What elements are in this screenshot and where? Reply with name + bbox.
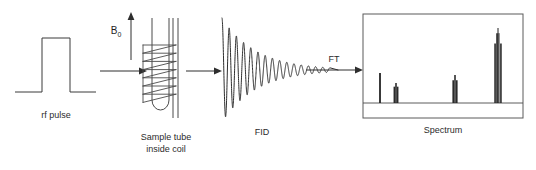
sample-tube-group: B0 Sample tube inside coil <box>111 12 192 154</box>
coil-turn-front <box>143 45 176 53</box>
nmr-flow-svg: rf pulse B0 Sample tube inside coil <box>0 0 536 170</box>
b0-field-arrow <box>128 12 135 60</box>
sample-tube-label-line1: Sample tube <box>141 132 192 142</box>
spectrum-peaks <box>380 28 501 103</box>
rf-pulse-label: rf pulse <box>41 110 71 120</box>
arrow-head-icon <box>214 68 222 75</box>
arrow-head-icon <box>128 12 135 20</box>
fid-label: FID <box>255 127 270 137</box>
fid-waveform <box>222 18 338 117</box>
spectrum-label: Spectrum <box>424 125 463 135</box>
coil-turn-front <box>143 70 176 78</box>
sample-tube-label-line2: inside coil <box>146 144 186 154</box>
rf-coil <box>143 45 176 102</box>
rf-pulse-waveform <box>15 38 96 92</box>
spectrum-peak <box>453 75 457 103</box>
coil-turn-front <box>143 53 176 61</box>
spectrum-peak <box>495 28 501 103</box>
spectrum-peak <box>394 83 397 103</box>
rf-pulse-group: rf pulse <box>15 38 96 120</box>
arrow-head-icon <box>355 67 363 74</box>
coil-turn-front <box>143 78 176 86</box>
coil-turn-front <box>143 94 176 102</box>
nmr-diagram: rf pulse B0 Sample tube inside coil <box>0 0 536 170</box>
coil-turn-front <box>143 86 176 94</box>
arrow-pulse-to-tube <box>100 68 147 75</box>
fid-group: FID <box>222 18 338 137</box>
arrow-tube-to-fid <box>186 68 222 75</box>
b0-field-label: B0 <box>111 25 122 38</box>
coil-turn-front <box>143 61 176 69</box>
ft-label: FT <box>329 54 340 64</box>
ft-arrow-group: FT <box>306 54 363 73</box>
spectrum-group: Spectrum <box>363 14 523 135</box>
